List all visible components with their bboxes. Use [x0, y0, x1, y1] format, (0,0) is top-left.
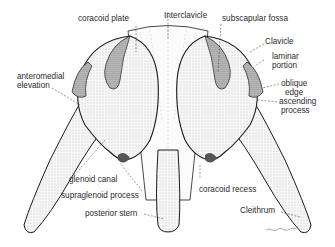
label-oblique-edge-1: oblique: [281, 79, 307, 88]
anatomical-illustration: coracoid plate Interclavicle subscapular…: [0, 0, 335, 247]
label-clavicle: Clavicle: [265, 37, 294, 46]
label-anteromedial-elevation-2: elevation: [17, 81, 50, 90]
label-laminar-portion-2: portion: [272, 61, 297, 70]
label-oblique-edge-2: edge: [285, 88, 303, 97]
label-cleithrum: Cleithrum: [240, 206, 275, 215]
posterior-stern-shape: [157, 150, 180, 232]
label-coracoid-recess: coracoid recess: [199, 185, 256, 194]
label-ascending-process-2: process: [281, 106, 310, 115]
label-posterior-stern: posterior stern: [85, 209, 137, 218]
label-supraglenoid-process: supraglenoid process: [61, 191, 139, 200]
label-glenoid-canal: glenoid canal: [69, 175, 117, 184]
label-coracoid-plate: coracoid plate: [78, 14, 129, 23]
label-subscapular-fossa: subscapular fossa: [222, 14, 288, 23]
label-laminar-portion-1: laminar: [272, 52, 299, 61]
label-anteromedial-elevation-1: anteromedial: [17, 72, 64, 81]
artist-signature: [266, 228, 296, 231]
label-ascending-process-1: ascending: [279, 97, 316, 106]
label-interclavicle: Interclavicle: [164, 11, 207, 20]
